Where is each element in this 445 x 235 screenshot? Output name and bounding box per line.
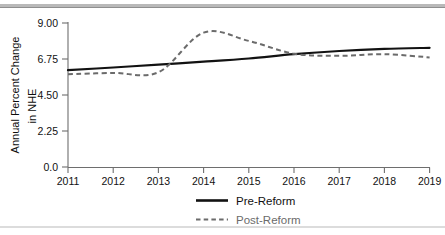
x-tick-label-2016: 2016 bbox=[282, 175, 306, 187]
line-chart-plot: 9.00 6.75 4.50 2.25 0.0 2011 2012 2013 2… bbox=[0, 0, 445, 235]
x-tick-label-2017: 2017 bbox=[328, 175, 352, 187]
legend-label-pre-reform: Pre-Reform bbox=[236, 195, 295, 207]
y-tick-label-450: 4.50 bbox=[38, 89, 59, 101]
x-tick-label-2012: 2012 bbox=[102, 175, 126, 187]
chart-figure: 9.00 6.75 4.50 2.25 0.0 2011 2012 2013 2… bbox=[0, 0, 445, 235]
series-line-pre-reform bbox=[68, 48, 430, 70]
chart-legend: Pre-Reform Post-Reform bbox=[196, 195, 301, 226]
series-line-post-reform bbox=[68, 31, 430, 75]
x-tick-label-2018: 2018 bbox=[373, 175, 397, 187]
x-tick-label-2013: 2013 bbox=[147, 175, 171, 187]
legend-label-post-reform: Post-Reform bbox=[236, 214, 301, 226]
x-tick-label-2019: 2019 bbox=[418, 175, 442, 187]
y-tick-label-0: 0.0 bbox=[43, 161, 58, 173]
x-tick-label-2015: 2015 bbox=[237, 175, 261, 187]
y-axis-title: Annual Percent Change in NHE bbox=[9, 37, 38, 154]
x-tick-label-2014: 2014 bbox=[192, 175, 216, 187]
x-tick-label-2011: 2011 bbox=[57, 175, 80, 187]
y-tick-label-675: 6.75 bbox=[38, 53, 59, 65]
y-axis-title-line-1: Annual Percent Change bbox=[9, 37, 21, 154]
y-tick-label-225: 2.25 bbox=[38, 125, 59, 137]
y-tick-label-9: 9.00 bbox=[38, 17, 59, 29]
y-axis-title-line-2: in NHE bbox=[26, 89, 38, 124]
x-axis-ticks: 2011 2012 2013 2014 2015 2016 2017 2018 … bbox=[57, 168, 442, 188]
y-axis-ticks: 9.00 6.75 4.50 2.25 0.0 bbox=[38, 17, 68, 173]
